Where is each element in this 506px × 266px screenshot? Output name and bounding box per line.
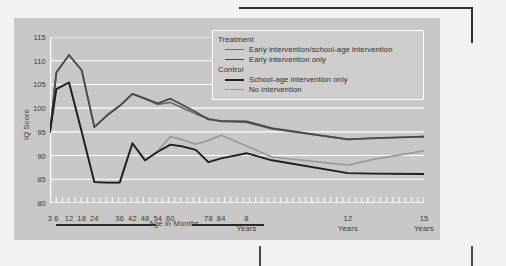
y-tick-label: 90 bbox=[37, 151, 46, 160]
legend-entry-label: No intervention bbox=[249, 85, 302, 94]
legend-entry-label: Early intervention/school-age interventi… bbox=[249, 45, 393, 54]
x-tick-label-months: 18 bbox=[77, 214, 86, 223]
y-axis-title: IQ Score bbox=[22, 109, 31, 140]
y-tick-label: 115 bbox=[33, 33, 46, 42]
legend-color-swatch bbox=[225, 79, 244, 81]
y-tick-label: 80 bbox=[37, 199, 46, 208]
legend-color-swatch bbox=[225, 49, 244, 50]
legend-entry-label: School-age intervention only bbox=[249, 75, 348, 84]
legend-entry: School-age intervention only bbox=[225, 75, 418, 84]
legend-entry: Early intervention/school-age interventi… bbox=[225, 45, 418, 54]
x-tick-label-months: 24 bbox=[90, 214, 99, 223]
y-tick-label: 85 bbox=[37, 175, 46, 184]
x-tick-label-months: 42 bbox=[128, 214, 137, 223]
page-tick-bottom-left bbox=[259, 246, 261, 266]
x-tick-label-months: 36 bbox=[115, 214, 124, 223]
legend-entry-label: Early intervention only bbox=[249, 55, 326, 64]
x-tick-label-years: 12Years bbox=[338, 214, 358, 233]
months-bracket-left bbox=[56, 224, 156, 226]
x-tick-label-months: 78 bbox=[204, 214, 213, 223]
figure-panel: IQ Score 80859095100105110115 3612182436… bbox=[14, 18, 440, 240]
x-tick-label-months: 3 bbox=[48, 214, 52, 223]
months-bracket-right bbox=[192, 224, 264, 226]
legend-color-swatch bbox=[225, 89, 244, 90]
page-tick-bottom-right bbox=[471, 246, 473, 266]
legend-group-title: Control bbox=[218, 65, 418, 74]
y-tick-label: 105 bbox=[33, 80, 46, 89]
x-tick-label-months: 6 bbox=[54, 214, 58, 223]
chart-legend: TreatmentEarly intervention/school-age i… bbox=[212, 30, 424, 100]
legend-entry: Early intervention only bbox=[225, 55, 418, 64]
x-tick-label-years: 15Years bbox=[414, 214, 434, 233]
legend-entry: No intervention bbox=[225, 85, 418, 94]
page-rule-top-end bbox=[471, 7, 473, 43]
legend-group-title: Treatment bbox=[218, 35, 418, 44]
legend-color-swatch bbox=[225, 59, 244, 60]
x-tick-label-months: 84 bbox=[217, 214, 226, 223]
x-tick-label-months: 12 bbox=[65, 214, 74, 223]
y-tick-label: 100 bbox=[33, 104, 46, 113]
y-tick-label: 95 bbox=[37, 127, 46, 136]
page-rule-top bbox=[239, 7, 473, 9]
y-tick-label: 110 bbox=[33, 56, 46, 65]
